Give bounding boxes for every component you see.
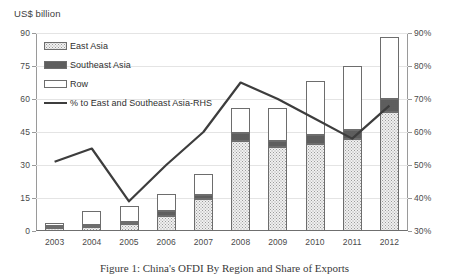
legend-label-percent-line: % to East and Southeast Asia-RHS <box>70 98 212 108</box>
y-axis-right-tick-label: 40% <box>414 193 444 203</box>
y-axis-title: US$ billion <box>14 8 61 19</box>
y-axis-left-tick-label: 15 <box>8 193 30 203</box>
y-axis-right-tick-label: 80% <box>414 61 444 71</box>
y-axis-left-tickmark <box>32 132 36 133</box>
x-axis-tick-label: 2005 <box>119 237 138 247</box>
legend-label-southeast-asia: Southeast Asia <box>70 60 131 70</box>
y-axis-right-tickmark <box>408 231 412 232</box>
y-axis-left-tick-label: 45 <box>8 127 30 137</box>
y-axis-left-tickmark <box>32 66 36 67</box>
x-axis-tick-label: 2012 <box>380 237 399 247</box>
y-axis-right-tickmark <box>408 66 412 67</box>
x-axis-tick-label: 2006 <box>157 237 176 247</box>
x-axis-tick-label: 2003 <box>45 237 64 247</box>
legend-item-east-asia: East Asia <box>44 38 274 53</box>
x-axis-tick-label: 2009 <box>268 237 287 247</box>
legend-swatch-southeast-asia-icon <box>44 61 67 69</box>
y-axis-left-tick-label: 75 <box>8 61 30 71</box>
x-axis-tick-label: 2008 <box>231 237 250 247</box>
x-axis-tick-label: 2011 <box>343 237 362 247</box>
figure-caption: Figure 1: China's OFDI By Region and Sha… <box>0 262 449 274</box>
legend-swatch-east-asia-icon <box>44 42 67 50</box>
y-axis-left-tickmark <box>32 165 36 166</box>
y-axis-right-tick-label: 70% <box>414 94 444 104</box>
y-axis-left-tick-label: 60 <box>8 94 30 104</box>
y-axis-right-tickmark <box>408 198 412 199</box>
legend-label-row: Row <box>70 79 88 89</box>
y-axis-right-tick-label: 50% <box>414 160 444 170</box>
y-axis-left-tick-label: 0 <box>8 226 30 236</box>
y-axis-right-tick-label: 90% <box>414 28 444 38</box>
legend-line-percent-icon <box>44 102 67 104</box>
y-axis-right-tick-label: 60% <box>414 127 444 137</box>
x-axis-tick-label: 2004 <box>82 237 101 247</box>
x-axis-tick-label: 2007 <box>194 237 213 247</box>
y-axis-left-tickmark <box>32 231 36 232</box>
y-axis-left-tick-label: 30 <box>8 160 30 170</box>
y-axis-left-tickmark <box>32 198 36 199</box>
y-axis-left-tickmark <box>32 99 36 100</box>
legend-swatch-row-icon <box>44 80 67 88</box>
y-axis-right-tick-label: 30% <box>414 226 444 236</box>
legend-item-southeast-asia: Southeast Asia <box>44 57 274 72</box>
y-axis-left-tickmark <box>32 33 36 34</box>
y-axis-right-tickmark <box>408 99 412 100</box>
chart-legend: East Asia Southeast Asia Row % to East a… <box>44 38 274 114</box>
legend-label-east-asia: East Asia <box>70 41 108 51</box>
y-axis-right-tickmark <box>408 165 412 166</box>
x-axis-tick-label: 2010 <box>305 237 324 247</box>
legend-item-percent-line: % to East and Southeast Asia-RHS <box>44 95 274 110</box>
y-axis-left-tick-label: 90 <box>8 28 30 38</box>
y-axis-right-tickmark <box>408 132 412 133</box>
legend-item-row: Row <box>44 76 274 91</box>
y-axis-right-tickmark <box>408 33 412 34</box>
